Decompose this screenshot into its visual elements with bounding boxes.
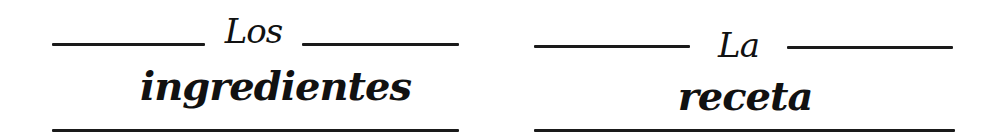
heading-title-receta: receta <box>670 76 820 116</box>
heading-article-la: La <box>690 28 787 62</box>
recipe-heading-panel: La receta <box>0 0 992 140</box>
bottom-divider-line <box>534 129 955 132</box>
top-left-divider-line <box>534 45 690 48</box>
top-right-divider-line <box>787 46 953 49</box>
